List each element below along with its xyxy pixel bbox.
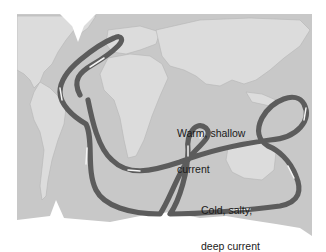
conveyor-belt-diagram: Warm, shallow current Cold, salty, deep …: [0, 0, 326, 252]
warm-current-label-line2: current: [177, 163, 245, 175]
arrow-africa: [128, 170, 140, 171]
cold-current-label: Cold, salty, deep current: [201, 180, 260, 252]
warm-current-label-line1: Warm, shallow: [177, 127, 245, 139]
cold-current-label-line1: Cold, salty,: [201, 204, 260, 216]
cold-current-label-line2: deep current: [201, 240, 260, 252]
arrow-south-atlantic: [86, 148, 87, 164]
world-map: [0, 0, 326, 252]
